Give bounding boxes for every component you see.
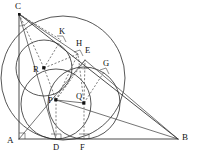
marker-Q [82, 101, 85, 104]
label-E: E [85, 46, 90, 55]
segment-QE [84, 60, 85, 103]
label-R: R [33, 65, 39, 74]
angle-arc-C [19, 21, 29, 26]
marker-P [54, 98, 57, 101]
segment-PB [56, 100, 178, 139]
segment-CH [19, 14, 78, 54]
label-D: D [53, 143, 59, 152]
segment-EB [85, 60, 178, 139]
label-C: C [15, 2, 21, 11]
right-angle-H [74, 50, 83, 56]
label-B: B [182, 133, 188, 142]
marker-C [18, 13, 21, 16]
segment-RK [44, 40, 61, 68]
label-H: H [76, 39, 82, 48]
label-G: G [103, 59, 109, 68]
geometry-figure: C K H E G R P Q A D F B [0, 0, 199, 160]
right-angle-marks [19, 21, 109, 139]
label-P: P [48, 96, 53, 105]
triangle-ABC [19, 14, 178, 139]
segment-CB [19, 14, 178, 139]
label-K: K [59, 27, 65, 36]
geometry-canvas [0, 0, 199, 160]
label-F: F [80, 143, 85, 152]
segment-CD [19, 14, 56, 139]
label-Q: Q [76, 92, 82, 101]
marker-R [42, 66, 45, 69]
segment-RH [44, 54, 78, 68]
label-A: A [7, 136, 14, 145]
